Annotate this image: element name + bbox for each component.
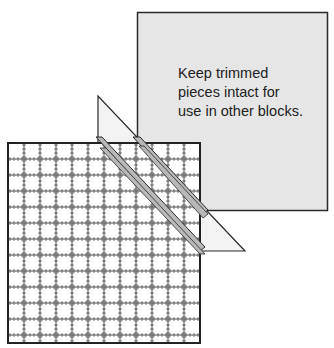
note-line-3: use in other blocks. <box>178 102 328 121</box>
note-line-2: pieces intact for <box>178 83 328 102</box>
note-line-1: Keep trimmed <box>178 64 328 83</box>
trimmed-pieces-note: Keep trimmed pieces intact for use in ot… <box>178 64 328 121</box>
quilt-trimming-diagram <box>0 0 334 348</box>
